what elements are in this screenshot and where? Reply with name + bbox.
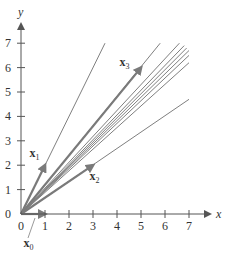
vectors xyxy=(21,68,141,214)
y-tick-label: 3 xyxy=(5,134,11,148)
y-axis-label: y xyxy=(17,5,24,19)
x-axis-label: x xyxy=(215,207,222,221)
vector-x3 xyxy=(21,68,141,214)
y-tick-label: 5 xyxy=(5,85,11,99)
y-tick-label: 4 xyxy=(5,109,11,123)
x-tick-label: 7 xyxy=(186,219,192,233)
ray-line xyxy=(21,51,189,214)
x-tick-label: 1 xyxy=(42,219,48,233)
x-tick-label: 5 xyxy=(138,219,144,233)
vector-iteration-chart: 01234567 01234567 x y x0x1x2x3 xyxy=(0,0,228,259)
y-tick-label: 2 xyxy=(5,158,11,172)
y-tick-label: 6 xyxy=(5,61,11,75)
y-axis-ticks: 01234567 xyxy=(5,36,25,221)
y-tick-label: 1 xyxy=(5,183,11,197)
ray-line xyxy=(21,55,189,214)
ray-line xyxy=(21,48,187,214)
y-tick-label: 0 xyxy=(5,207,11,221)
ray-line xyxy=(21,63,189,214)
x-tick-label: 4 xyxy=(114,219,120,233)
ray-line xyxy=(21,43,179,214)
vector-label-x0: x0 xyxy=(23,236,33,252)
ray-lines xyxy=(21,43,189,214)
vector-label-x1: x1 xyxy=(29,146,39,162)
x-tick-label: 3 xyxy=(90,219,96,233)
vector-label-x2: x2 xyxy=(89,169,99,185)
x-tick-label: 0 xyxy=(18,219,24,233)
x-tick-label: 6 xyxy=(162,219,168,233)
x-tick-label: 2 xyxy=(66,219,72,233)
vector-label-x3: x3 xyxy=(119,55,129,71)
y-tick-label: 7 xyxy=(5,36,11,50)
ray-line xyxy=(21,46,184,214)
